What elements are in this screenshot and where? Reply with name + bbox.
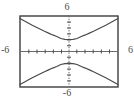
- x-max-label: 6: [128, 45, 133, 55]
- graph-figure: 6 -6 -6 6: [0, 0, 134, 101]
- y-max-label: 6: [0, 2, 134, 12]
- x-min-label: -6: [1, 45, 9, 55]
- plot-canvas: [0, 0, 134, 101]
- y-min-label: -6: [0, 88, 134, 98]
